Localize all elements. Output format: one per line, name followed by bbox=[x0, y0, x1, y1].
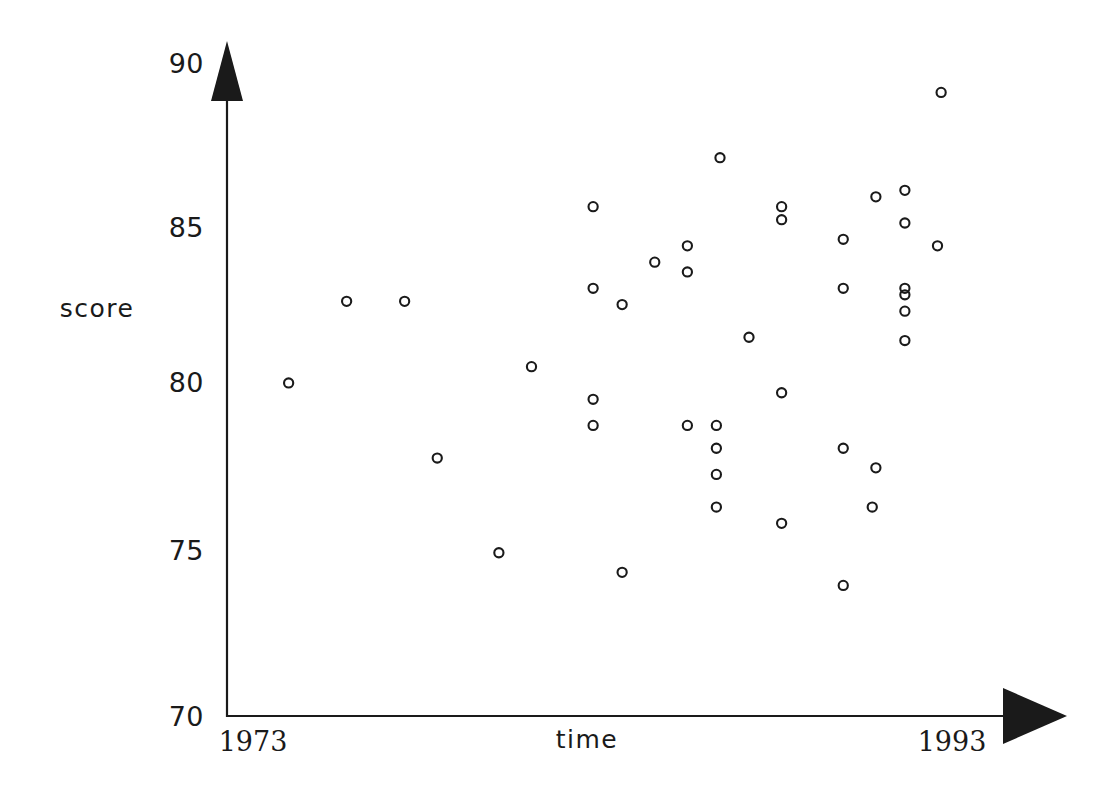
y-tick-label-75: 75 bbox=[169, 535, 204, 566]
data-point bbox=[589, 284, 598, 293]
data-point bbox=[650, 258, 659, 267]
x-axis-arrowhead bbox=[1003, 688, 1067, 744]
data-point bbox=[284, 378, 293, 387]
data-point bbox=[712, 470, 721, 479]
data-point bbox=[715, 153, 724, 162]
data-point bbox=[937, 88, 946, 97]
data-point bbox=[683, 267, 692, 276]
x-axis-title: time bbox=[556, 725, 618, 754]
data-point bbox=[494, 548, 503, 557]
data-point bbox=[589, 395, 598, 404]
data-point bbox=[744, 333, 753, 342]
data-point bbox=[683, 241, 692, 250]
data-point bbox=[868, 502, 877, 511]
data-point bbox=[900, 290, 909, 299]
y-tick-label-80: 80 bbox=[169, 367, 204, 398]
data-point bbox=[839, 581, 848, 590]
y-tick-label-90: 90 bbox=[169, 48, 204, 79]
data-point bbox=[683, 421, 692, 430]
data-point bbox=[777, 215, 786, 224]
data-point bbox=[618, 300, 627, 309]
y-tick-label-70: 70 bbox=[169, 701, 204, 732]
data-point bbox=[527, 362, 536, 371]
data-point bbox=[900, 336, 909, 345]
data-point bbox=[400, 297, 409, 306]
data-point bbox=[900, 218, 909, 227]
x-start-label: 1973 bbox=[219, 726, 288, 757]
data-point bbox=[900, 186, 909, 195]
data-point bbox=[618, 568, 627, 577]
data-point bbox=[712, 502, 721, 511]
y-axis-title: score bbox=[60, 294, 135, 323]
data-point bbox=[933, 241, 942, 250]
scatter-plot-figure: 90 85 80 75 70 score time 1973 1993 bbox=[0, 0, 1113, 794]
data-point bbox=[839, 235, 848, 244]
data-point bbox=[712, 421, 721, 430]
data-point bbox=[839, 444, 848, 453]
y-tick-label-85: 85 bbox=[169, 212, 204, 243]
data-point bbox=[871, 192, 880, 201]
data-point bbox=[589, 202, 598, 211]
data-point bbox=[777, 388, 786, 397]
y-axis-arrowhead bbox=[211, 41, 243, 101]
plot-canvas bbox=[0, 0, 1113, 794]
x-end-label: 1993 bbox=[918, 726, 987, 757]
data-point bbox=[342, 297, 351, 306]
data-point bbox=[871, 463, 880, 472]
data-point bbox=[712, 444, 721, 453]
data-point bbox=[433, 453, 442, 462]
data-point bbox=[777, 519, 786, 528]
data-point-group bbox=[284, 88, 946, 590]
data-point bbox=[589, 421, 598, 430]
data-point bbox=[777, 202, 786, 211]
data-point bbox=[839, 284, 848, 293]
data-point bbox=[900, 307, 909, 316]
